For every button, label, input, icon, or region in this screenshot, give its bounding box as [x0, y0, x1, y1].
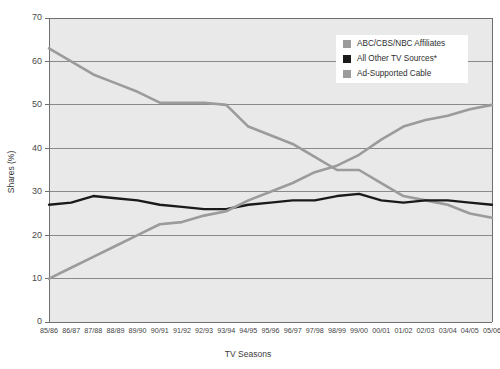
x-tick-label-4: 89/90: [129, 326, 147, 335]
y-tick-label-30: 30: [32, 186, 42, 196]
chart-legend: ABC/CBS/NBC AffiliatesAll Other TV Sourc…: [336, 35, 468, 83]
x-tick-label-10: 95/96: [262, 326, 280, 335]
x-tick-label-12: 97/98: [306, 326, 324, 335]
chart-container: 010203040506070 85/8686/8787/8888/8989/9…: [0, 0, 500, 369]
y-tick-label-60: 60: [32, 56, 42, 66]
y-axis-tick-labels: 010203040506070: [32, 12, 42, 326]
x-axis-title: TV Seasons: [225, 349, 271, 359]
x-tick-label-15: 00/01: [372, 326, 390, 335]
x-tick-label-5: 90/91: [151, 326, 169, 335]
y-tick-label-70: 70: [32, 12, 42, 22]
y-tick-label-20: 20: [32, 230, 42, 240]
x-tick-label-6: 91/92: [173, 326, 191, 335]
x-axis-tick-labels: 85/8686/8787/8888/8989/9090/9191/9292/93…: [40, 326, 500, 335]
share-trend-line-chart: 010203040506070 85/8686/8787/8888/8989/9…: [0, 0, 500, 369]
x-tick-label-0: 85/86: [40, 326, 58, 335]
x-tick-label-8: 93/94: [217, 326, 235, 335]
x-tick-label-1: 86/87: [62, 326, 80, 335]
x-tick-label-3: 88/89: [106, 326, 124, 335]
x-tick-label-13: 98/99: [328, 326, 346, 335]
y-tick-label-0: 0: [37, 316, 42, 326]
x-tick-label-17: 02/03: [417, 326, 435, 335]
x-tick-label-14: 99/00: [350, 326, 368, 335]
x-tick-label-11: 96/97: [284, 326, 302, 335]
legend-label-2: Ad-Supported Cable: [357, 69, 432, 78]
legend-swatch-1: [343, 55, 351, 63]
x-tick-label-18: 03/04: [439, 326, 457, 335]
y-axis-title: Shares (%): [6, 151, 16, 194]
legend-label-0: ABC/CBS/NBC Affiliates: [357, 39, 445, 48]
y-axis-ticks: [45, 18, 49, 322]
x-tick-label-9: 94/95: [239, 326, 257, 335]
y-tick-label-40: 40: [32, 143, 42, 153]
y-tick-label-50: 50: [32, 99, 42, 109]
y-tick-label-10: 10: [32, 273, 42, 283]
x-tick-label-20: 05/06: [483, 326, 500, 335]
x-tick-label-2: 87/88: [84, 326, 102, 335]
x-tick-label-19: 04/05: [461, 326, 479, 335]
x-tick-label-16: 01/02: [394, 326, 412, 335]
legend-label-1: All Other TV Sources*: [357, 54, 438, 63]
legend-swatch-2: [343, 70, 351, 78]
legend-swatch-0: [343, 40, 351, 48]
x-tick-label-7: 92/93: [195, 326, 213, 335]
